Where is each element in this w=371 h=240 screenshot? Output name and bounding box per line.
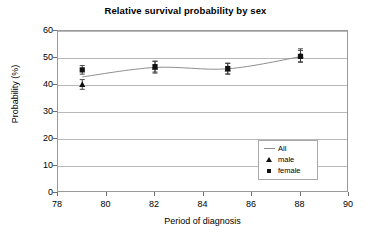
x-tick-label: 88 [285, 199, 315, 209]
x-tick-mark [154, 192, 155, 196]
y-tick-label: 30 [23, 107, 53, 116]
x-tick-mark [348, 192, 349, 196]
legend-item-female: female [262, 165, 314, 176]
relative-survival-chart: Relative survival probability by sex 010… [0, 0, 371, 240]
female-data-point [80, 67, 85, 72]
x-tick-mark [300, 192, 301, 196]
line-key-icon [262, 148, 276, 149]
x-tick-label: 86 [236, 199, 266, 209]
x-tick-label: 84 [188, 199, 218, 209]
x-tick-mark [203, 192, 204, 196]
all-series-line [82, 57, 300, 77]
y-tick-label: 50 [23, 53, 53, 62]
square-key-icon [262, 169, 276, 173]
x-tick-label: 82 [139, 199, 169, 209]
legend-item-all: All [262, 143, 314, 154]
x-tick-mark [106, 192, 107, 196]
y-tick-label: 10 [23, 161, 53, 170]
y-tick-label: 60 [23, 26, 53, 35]
legend-label: male [276, 154, 294, 165]
x-tick-mark [251, 192, 252, 196]
x-tick-label: 78 [42, 199, 72, 209]
x-tick-label: 90 [333, 199, 363, 209]
x-tick-mark [57, 192, 58, 196]
y-tick-label: 20 [23, 134, 53, 143]
y-axis-title: Probability (%) [10, 49, 20, 139]
chart-legend: All male female [258, 140, 318, 180]
y-axis-tick-labels: 0102030405060 [20, 30, 53, 192]
female-data-point [298, 54, 303, 59]
y-tick-label: 40 [23, 80, 53, 89]
x-tick-label: 80 [91, 199, 121, 209]
x-axis-title: Period of diagnosis [57, 216, 348, 226]
female-data-point [225, 66, 230, 71]
triangle-key-icon [262, 157, 276, 162]
legend-label: female [276, 165, 301, 176]
chart-title: Relative survival probability by sex [0, 5, 371, 16]
x-axis-tick-labels: 78808284868890 [57, 199, 348, 211]
y-tick-label: 0 [23, 188, 53, 197]
legend-item-male: male [262, 154, 314, 165]
legend-label: All [276, 143, 286, 154]
female-data-point [152, 64, 157, 69]
x-axis-tick-marks [57, 192, 348, 198]
male-data-point [79, 81, 85, 87]
